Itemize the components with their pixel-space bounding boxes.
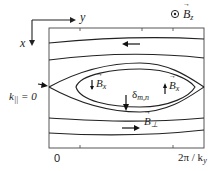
b-perp-label: B⊥ <box>144 116 158 129</box>
bz-out-of-page-icon <box>171 10 178 17</box>
field-lines <box>49 38 204 135</box>
tick-label-zero: 0 <box>54 153 60 164</box>
delta-mn-label: δm,n <box>132 89 149 102</box>
bx-right-label: Bx <box>169 80 179 93</box>
island-diagram <box>0 0 222 171</box>
bz-label: Bz <box>183 8 193 22</box>
y-axis-label: y <box>80 11 85 23</box>
tick-label-period: 2π / ky <box>178 152 207 165</box>
k-parallel-zero-label: k|| = 0 <box>9 91 37 104</box>
bx-left-label: Bx <box>96 78 106 91</box>
x-axis-label: x <box>20 37 25 49</box>
